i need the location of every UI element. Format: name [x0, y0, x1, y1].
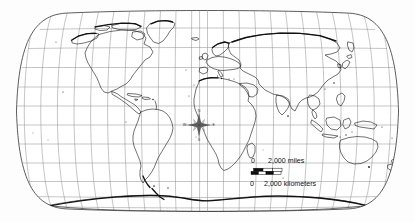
scale-miles-value: 2,000 miles — [268, 157, 305, 165]
land-falklands — [153, 185, 155, 187]
scale-miles-zero: 0 — [251, 157, 255, 165]
land-puerto-rico — [152, 99, 154, 101]
land-islet-kerguelen — [283, 178, 284, 179]
scale-kilometers-zero: 0 — [250, 180, 254, 188]
scale-bar-miles-segments — [254, 168, 283, 171]
world-map-figure: N S E W 0 2,000 miles 0 — [0, 0, 415, 222]
world-map-canvas[interactable]: N S E W 0 2,000 miles 0 — [0, 0, 415, 222]
land-islet-solomon — [381, 126, 382, 127]
land-islet-tahiti — [48, 140, 49, 141]
land-islet-fiji — [392, 138, 393, 139]
land-islet-samoa — [33, 133, 34, 134]
land-islet-mauritius — [263, 150, 264, 151]
land-islet-bali — [340, 137, 341, 138]
land-crete — [228, 78, 229, 79]
land-sardinia — [217, 75, 218, 76]
land-islet-molucca — [351, 131, 352, 132]
land-cyprus — [234, 79, 235, 80]
land-hainan — [324, 88, 325, 89]
land-islet-timor — [345, 134, 346, 135]
land-islet-azores — [186, 70, 187, 71]
land-islet-cape-verde — [189, 96, 190, 97]
scale-kilometers-value: 2,000 kilometers — [264, 180, 316, 188]
compass-label-north: N — [198, 109, 201, 113]
scale-bar-kilometers-segments — [251, 171, 281, 174]
land-islet-hawaii — [62, 91, 63, 92]
land-islet-canary — [194, 85, 195, 86]
land-south-georgia — [167, 187, 168, 188]
land-islet-galapagos — [126, 122, 127, 123]
land-sri-lanka — [287, 115, 289, 117]
land-tasmania — [368, 166, 370, 168]
land-taiwan — [333, 82, 335, 84]
compass-hub — [198, 124, 200, 126]
compass-label-west: W — [183, 123, 187, 127]
land-islet-aleutian — [56, 42, 57, 43]
land-islet-ascension — [196, 137, 197, 138]
